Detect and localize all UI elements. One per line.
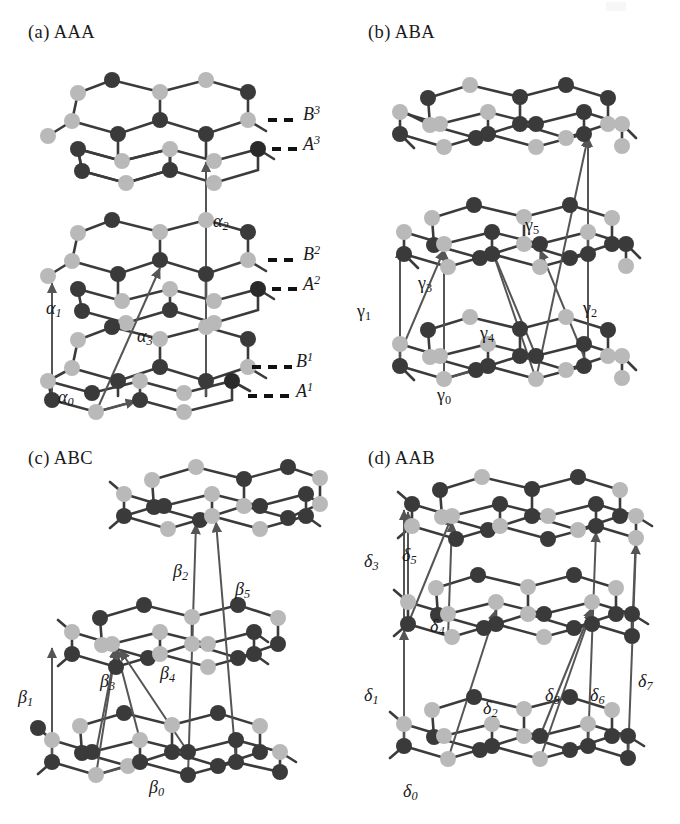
sublattice-dashed-leaders xyxy=(248,120,300,396)
label-alpha-2: α2 xyxy=(213,212,229,233)
panel-aaa: (a) AAA xyxy=(0,0,340,420)
label-delta-2: δ2 xyxy=(483,699,498,720)
label-alpha-3: α3 xyxy=(137,327,153,348)
label-delta-3: δ3 xyxy=(364,552,379,573)
label-beta-0: β0 xyxy=(149,778,164,799)
label-delta-0: δ0 xyxy=(403,782,418,803)
label-gamma-5: γ5 xyxy=(525,216,539,237)
label-gamma-3: γ3 xyxy=(418,274,432,295)
structure-aba xyxy=(340,0,680,420)
sublattice-label-B2: B2 xyxy=(303,244,320,263)
panel-aba: (b) ABA xyxy=(340,0,680,420)
label-beta-2: β2 xyxy=(173,562,188,583)
label-beta-3: β3 xyxy=(100,672,115,693)
label-beta-5: β5 xyxy=(235,580,250,601)
panel-aab: (d) AAB xyxy=(340,420,680,824)
structure-aaa xyxy=(0,0,340,420)
label-beta-1: β1 xyxy=(18,688,33,709)
label-delta-7: δ7 xyxy=(638,672,653,693)
sublattice-label-A2: A2 xyxy=(303,274,320,293)
sublattice-label-B1: B1 xyxy=(296,351,313,370)
label-gamma-4: γ4 xyxy=(480,324,494,345)
label-alpha-1: α1 xyxy=(46,299,62,320)
label-delta-4: δ4 xyxy=(430,617,445,638)
label-delta-6: δ6 xyxy=(590,686,605,707)
label-beta-4: β4 xyxy=(160,664,175,685)
panel-abc: (c) ABC xyxy=(0,420,340,824)
label-delta-5: δ5 xyxy=(402,546,417,567)
label-delta-1: δ1 xyxy=(364,686,379,707)
sublattice-label-A3: A3 xyxy=(303,134,320,153)
structure-aab xyxy=(340,420,680,824)
label-gamma-0: γ0 xyxy=(437,386,451,407)
label-gamma-2: γ2 xyxy=(583,299,597,320)
label-gamma-1: γ1 xyxy=(357,302,371,323)
structure-abc xyxy=(0,420,340,824)
sublattice-label-B3: B3 xyxy=(303,104,320,123)
label-delta-8: δ8 xyxy=(545,686,560,707)
sublattice-label-A1: A1 xyxy=(296,381,313,400)
atoms-c xyxy=(30,459,328,783)
label-alpha-0: α0 xyxy=(58,388,74,409)
